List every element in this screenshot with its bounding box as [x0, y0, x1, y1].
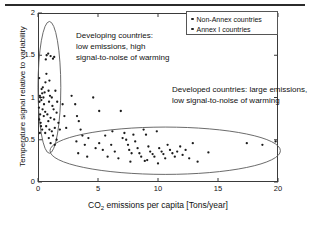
annotation-developing-line3: signal-to-noise of warming [76, 52, 196, 63]
annotation-developing-line1: Developing countries: [76, 30, 196, 41]
legend-marker-dot [191, 18, 194, 21]
annotation-developed: Developed countries: large emissions, lo… [172, 84, 331, 106]
legend: Non-Annex countries Annex I countries [186, 11, 278, 35]
x-tick-label: 5 [96, 184, 100, 193]
x-tick-label: 10 [154, 184, 162, 193]
x-axis-title-main: CO [88, 200, 101, 210]
legend-item-annex-i: Annex I countries [190, 24, 274, 34]
y-axis-title: Temperature signal relative to variabili… [18, 7, 27, 187]
x-axis-title-sub: 2 [101, 205, 104, 211]
annotation-developed-line2: low signal-to-noise of warming [172, 95, 331, 106]
header-rule [5, 4, 305, 6]
legend-item-non-annex: Non-Annex countries [190, 14, 274, 24]
annotation-developing-line2: low emissions, high [76, 41, 196, 52]
x-axis-title-rest: emissions per capita [Tons/year] [104, 200, 228, 210]
x-axis-title: CO2 emissions per capita [Tons/year] [38, 200, 278, 210]
figure-scatter-chart: 05101520 00.511.52 CO2 emissions per cap… [0, 0, 331, 228]
annotation-developing: Developing countries: low emissions, hig… [76, 30, 196, 63]
legend-label-annex-i: Annex I countries [197, 26, 251, 33]
x-tick-label: 0 [36, 184, 40, 193]
legend-label-non-annex: Non-Annex countries [197, 16, 262, 23]
x-tick-label: 15 [214, 184, 222, 193]
x-tick-label: 20 [274, 184, 282, 193]
annotation-developed-line1: Developed countries: large emissions, [172, 84, 331, 95]
